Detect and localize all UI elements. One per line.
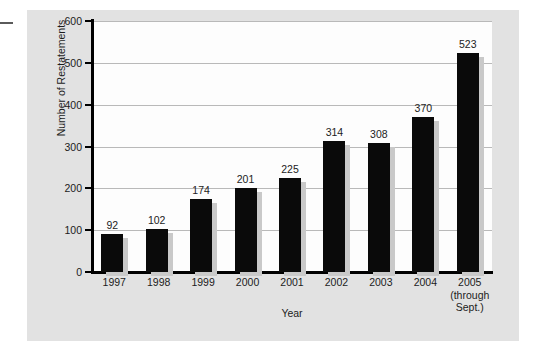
- bar-group: 201: [235, 21, 263, 272]
- bar[interactable]: [279, 178, 301, 272]
- bars-group: 92102174201225314308370523: [92, 21, 492, 272]
- bar-group: 102: [146, 21, 174, 272]
- y-tick-mark: [85, 20, 91, 22]
- bar-value-label: 370: [403, 103, 443, 114]
- bar[interactable]: [368, 143, 390, 272]
- bar[interactable]: [235, 188, 257, 272]
- y-tick-mark: [85, 187, 91, 189]
- bar[interactable]: [457, 53, 479, 272]
- bar-value-label: 102: [137, 215, 177, 226]
- y-tick-label: 100: [48, 225, 82, 235]
- bar-group: 314: [323, 21, 351, 272]
- bar-value-label: 92: [92, 220, 132, 231]
- x-axis-title: Year: [92, 307, 492, 319]
- bar-value-label: 314: [314, 127, 354, 138]
- bar-value-label: 225: [270, 164, 310, 175]
- x-tick-label-line: 2005: [443, 276, 497, 289]
- bar[interactable]: [190, 199, 212, 272]
- bar-group: 308: [368, 21, 396, 272]
- chart-figure-panel: 0100200300400500600 92102174201225314308…: [27, 10, 519, 341]
- bar-value-label: 174: [181, 185, 221, 196]
- bar[interactable]: [101, 234, 123, 272]
- bar-group: 523: [457, 21, 485, 272]
- bar[interactable]: [412, 117, 434, 272]
- y-tick-mark: [85, 229, 91, 231]
- bar-group: 174: [190, 21, 218, 272]
- x-axis-tick-labels-group: 199719981999200020012002200320042005(thr…: [92, 276, 492, 336]
- bar-group: 225: [279, 21, 307, 272]
- y-tick-mark: [85, 146, 91, 148]
- bar-value-label: 523: [448, 39, 488, 50]
- y-tick-mark: [85, 104, 91, 106]
- y-tick-label: 200: [48, 183, 82, 193]
- bar[interactable]: [146, 229, 168, 272]
- bar-group: 92: [101, 21, 129, 272]
- bar-value-label: 308: [359, 129, 399, 140]
- y-tick-mark: [85, 271, 91, 273]
- bar[interactable]: [323, 141, 345, 272]
- bar-group: 370: [412, 21, 440, 272]
- y-axis-title: Number of Restatements: [55, 0, 67, 158]
- left-margin-dash: [0, 22, 13, 24]
- x-tick-label-line: (through: [443, 289, 497, 302]
- y-tick-label: 0: [48, 267, 82, 277]
- bar-value-label: 201: [226, 174, 266, 185]
- y-tick-mark: [85, 62, 91, 64]
